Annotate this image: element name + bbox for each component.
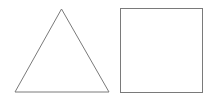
diagram-canvas — [0, 0, 212, 98]
triangle-shape — [15, 9, 109, 92]
square-shape — [121, 9, 203, 93]
